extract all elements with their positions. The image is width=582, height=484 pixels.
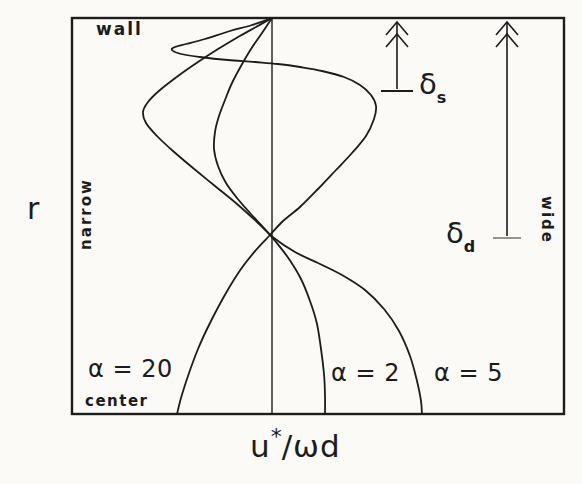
delta-s-symbol: δ: [419, 67, 437, 101]
curve-alpha-2: [214, 18, 325, 414]
wall-label: wall: [96, 21, 143, 38]
curve-label-alpha-5: α = 5: [434, 361, 503, 385]
delta-s-label: δs: [419, 70, 446, 106]
u-axis-label-base: u: [250, 428, 271, 464]
curve-alpha-5: [143, 18, 422, 414]
delta-d-label: δd: [446, 219, 475, 255]
narrow-gap-label: narrow: [79, 178, 94, 250]
figure-canvas: wall center narrow wide r u*/ωd α = 20 α…: [0, 0, 582, 484]
curve-alpha-20: [172, 18, 376, 414]
u-axis-label: u*/ωd: [250, 426, 341, 462]
wide-gap-label: wide: [539, 196, 554, 244]
delta-d-symbol: δ: [446, 216, 464, 250]
curve-label-alpha-2: α = 2: [331, 361, 400, 385]
center-label: center: [85, 394, 149, 409]
delta-s-subscript: s: [437, 88, 447, 107]
delta-d-subscript: d: [464, 237, 475, 256]
u-axis-label-rest: /ωd: [282, 428, 341, 464]
r-axis-label: r: [27, 194, 39, 224]
curve-label-alpha-20: α = 20: [88, 357, 173, 381]
u-axis-label-star: *: [271, 424, 282, 449]
